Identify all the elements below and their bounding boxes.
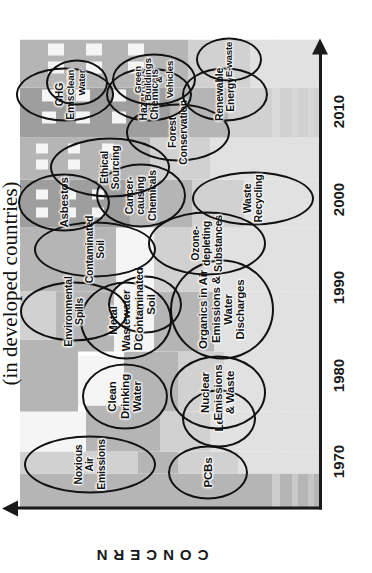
bubble-pcbs[interactable]: PCBs <box>168 445 248 499</box>
diagram-canvas: (in developed countries) CONCERN 1970 19… <box>0 0 372 573</box>
bubble-e-waste[interactable]: E-waste <box>196 37 262 81</box>
x-tick-1990: 1990 <box>330 257 347 317</box>
concern-axis-line <box>16 506 322 509</box>
arrow-right-icon <box>312 38 328 54</box>
bubble-green-buildings-vehicles[interactable]: Green Buildings & Vehicles <box>112 53 196 105</box>
x-tick-2000: 2000 <box>330 169 347 229</box>
bubble-clean-water[interactable]: Clean Water <box>46 59 108 105</box>
concern-axis-label: CONCERN <box>50 547 250 564</box>
page-title: (in developed countries) <box>0 143 23 423</box>
bubble-clean-drinking-water[interactable]: Clean Drinking Water <box>82 363 168 429</box>
arrow-up-icon <box>2 500 18 516</box>
bubble-waste-recycling[interactable]: Waste Recycling <box>192 171 314 225</box>
x-tick-1980: 1980 <box>330 345 347 405</box>
bubble-acid-rain[interactable]: Contaminated Soil <box>108 275 182 333</box>
x-tick-1970: 1970 <box>330 431 347 491</box>
x-tick-2010: 2010 <box>330 81 347 141</box>
bubble-nuclear-emissions-waste[interactable]: Nuclear Emissions & Waste <box>170 355 266 429</box>
time-axis-line <box>319 47 322 509</box>
bubble-noxious-air-emissions[interactable]: Noxious Air Emissions <box>24 435 156 493</box>
